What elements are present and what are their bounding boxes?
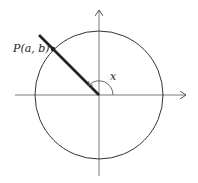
point-label: P(a, b) xyxy=(12,42,50,55)
point-p xyxy=(51,47,55,51)
unit-circle-diagram: P(a, b) x xyxy=(0,0,198,183)
angle-label: x xyxy=(110,70,117,83)
